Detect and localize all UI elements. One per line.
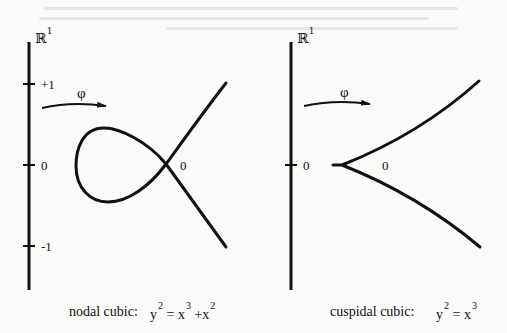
node-origin-label: 0 xyxy=(180,159,187,172)
cusp-origin-label: 0 xyxy=(382,159,389,172)
right-map-arrow xyxy=(304,102,370,106)
left-tick-zero: 0 xyxy=(41,159,48,172)
left-tick-plus-one: +1 xyxy=(41,78,55,91)
left-phi-label: φ xyxy=(77,86,86,101)
nodal-cubic-equation: y2 = x3 +x2 xyxy=(150,304,215,323)
left-axis-label: ℝ1 xyxy=(35,30,52,45)
right-axis-label: ℝ1 xyxy=(297,30,314,45)
right-phi-label: φ xyxy=(340,85,349,100)
right-tick-zero: 0 xyxy=(303,159,310,172)
figure-canvas xyxy=(0,0,507,333)
left-axis xyxy=(23,42,35,290)
nodal-cubic-caption: nodal cubic: xyxy=(69,304,138,320)
left-tick-minus-one: -1 xyxy=(41,240,52,253)
cuspidal-cubic-caption: cuspidal cubic: xyxy=(330,304,414,320)
left-map-arrow xyxy=(42,104,106,108)
cuspidal-cubic-equation: y2 = x3 xyxy=(436,304,477,323)
nodal-cubic-curve xyxy=(76,83,226,247)
right-axis xyxy=(285,42,297,290)
cuspidal-cubic-curve xyxy=(333,81,480,247)
